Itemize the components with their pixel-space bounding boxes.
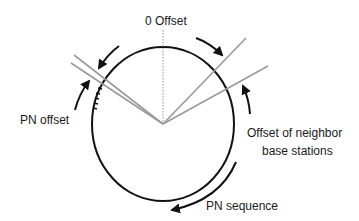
diagram-canvas (0, 0, 359, 221)
clockwise-arrow-icon (196, 38, 222, 55)
pn-offset-line-2 (71, 63, 163, 124)
pn-offset-arrow-up-icon (75, 81, 89, 110)
pn-offset-arrow-down-icon (99, 46, 119, 68)
pn-sequence-label: PN sequence (206, 199, 278, 213)
neighbor-offset-label-line1: Offset of neighbor (247, 126, 342, 140)
pn-offset-label: PN offset (20, 113, 69, 127)
neighbor-offset-line-2 (163, 66, 268, 124)
pn-offset-diagram: 0 Offset PN offset Offset of neighbor ba… (0, 0, 359, 221)
neighbor-offset-label-line2: base stations (262, 144, 333, 158)
pn-offset-line-1 (74, 55, 163, 124)
neighbor-offset-arrow-icon (243, 86, 250, 114)
zero-offset-label: 0 Offset (145, 14, 187, 28)
